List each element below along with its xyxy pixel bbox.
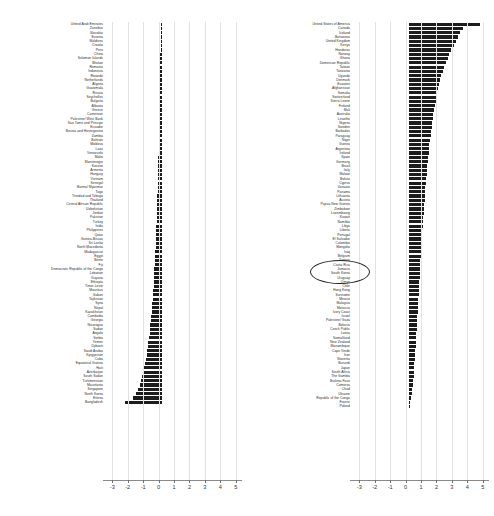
bar <box>160 78 162 81</box>
gridline <box>174 22 175 480</box>
bar <box>149 336 162 339</box>
bar <box>409 83 440 86</box>
axis-tick-label: 5 <box>481 484 484 490</box>
bar <box>409 237 422 240</box>
bar <box>159 104 161 107</box>
gridline <box>436 22 437 480</box>
bar <box>409 315 418 318</box>
bar <box>409 285 420 288</box>
bar <box>409 336 417 339</box>
axis-tick <box>421 480 422 483</box>
gridline <box>375 22 376 480</box>
right-chart-panel: United States of AmericaCanadaIcelandBot… <box>247 0 494 516</box>
gridline <box>128 22 129 480</box>
bar <box>409 379 413 382</box>
axis-tick <box>375 480 376 483</box>
bar <box>160 57 161 60</box>
bar <box>152 306 162 309</box>
bar <box>154 285 162 288</box>
bar-row: Poland <box>247 404 494 408</box>
bar <box>160 83 162 86</box>
category-label: Bangladesh <box>0 400 106 404</box>
bar <box>159 108 161 111</box>
bar <box>409 44 455 47</box>
bar <box>409 40 456 43</box>
bar <box>409 164 428 167</box>
bar <box>409 353 415 356</box>
bar <box>409 242 422 245</box>
bar <box>409 87 439 90</box>
bar <box>409 177 426 180</box>
bar <box>409 182 426 185</box>
axis-tick <box>143 480 144 483</box>
bar <box>409 366 415 369</box>
bar <box>409 173 427 176</box>
right-plot-area: United States of AmericaCanadaIcelandBot… <box>247 0 494 516</box>
category-label: Poland <box>247 404 353 408</box>
bar <box>409 306 418 309</box>
axis-tick <box>159 480 160 483</box>
axis-tick-label: 3 <box>203 484 206 490</box>
gridline <box>159 22 160 480</box>
bar <box>160 70 162 73</box>
axis-tick <box>390 480 391 483</box>
bar <box>409 130 431 133</box>
bar <box>161 35 162 38</box>
gridline <box>143 22 144 480</box>
gridline <box>220 22 221 480</box>
bar <box>409 298 419 301</box>
bar <box>409 396 412 399</box>
bar <box>409 233 422 236</box>
gridline <box>406 22 407 480</box>
axis-tick-label: 3 <box>450 484 453 490</box>
bar <box>160 61 161 64</box>
bar <box>409 147 429 150</box>
bar <box>160 87 162 90</box>
bar <box>409 246 422 249</box>
axis-tick-label: -2 <box>372 484 377 490</box>
axis-tick <box>406 480 407 483</box>
bar <box>409 401 411 404</box>
bar <box>409 267 420 270</box>
gridline <box>112 22 113 480</box>
axis-tick-label: -1 <box>388 484 393 490</box>
gridline <box>205 22 206 480</box>
bar <box>409 160 428 163</box>
bar <box>161 40 162 43</box>
bar <box>409 194 425 197</box>
axis-tick <box>452 480 453 483</box>
axis-tick-label: 1 <box>419 484 422 490</box>
bar <box>409 319 417 322</box>
gridline <box>189 22 190 480</box>
bar <box>159 113 161 116</box>
gridline <box>390 22 391 480</box>
axis-tick-label: -1 <box>141 484 146 490</box>
bar <box>159 117 161 120</box>
bar <box>160 53 161 56</box>
axis-tick <box>205 480 206 483</box>
bar <box>409 66 444 69</box>
gridline <box>467 22 468 480</box>
bar <box>409 263 421 266</box>
bar <box>409 405 410 408</box>
bar <box>409 48 451 51</box>
axis-tick-label: 2 <box>188 484 191 490</box>
axis-tick-label: -2 <box>125 484 130 490</box>
bar <box>409 61 446 64</box>
bar <box>161 27 162 30</box>
axis-tick-label: -3 <box>110 484 115 490</box>
axis-tick-label: 2 <box>435 484 438 490</box>
gridline <box>483 22 484 480</box>
bar <box>409 91 438 94</box>
bar <box>409 53 449 56</box>
axis-tick-label: 4 <box>219 484 222 490</box>
bar <box>409 375 414 378</box>
bar <box>409 143 430 146</box>
bar <box>409 96 437 99</box>
gridline <box>452 22 453 480</box>
bar <box>160 66 161 69</box>
bar <box>409 35 458 38</box>
bar <box>409 169 427 172</box>
axis-tick <box>174 480 175 483</box>
axis-tick-label: 4 <box>466 484 469 490</box>
